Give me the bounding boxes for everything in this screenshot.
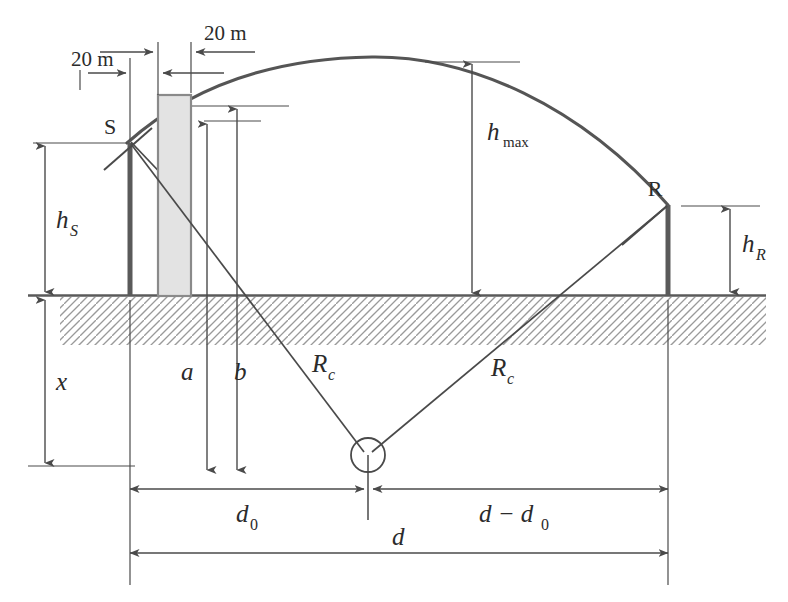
rc-left-label: R [311, 350, 327, 377]
obstacle-block [158, 95, 191, 296]
dim-label-hs-sub: S [70, 222, 78, 239]
ab-dimensions-group: a b [181, 106, 289, 470]
dim-label-d0: d [236, 500, 249, 527]
dim-label-hr-sub: R [755, 246, 766, 263]
hr-dimension-group: h R [681, 206, 766, 292]
dim-label-d-minus-d0-sub: 0 [541, 516, 549, 533]
path-profile-figure: S R R c R c 20 m 20 m [0, 0, 788, 602]
dim-label-hr: h [742, 230, 755, 257]
rc-right-sub: c [507, 370, 514, 387]
dim-label-d-minus-d0: d − d [479, 500, 534, 527]
dim-label-b: b [234, 358, 247, 385]
dim-20m-top: 20 m [204, 21, 247, 45]
dim-label-a: a [181, 358, 194, 385]
obstacle-building [158, 95, 191, 296]
rc-right-label: R [490, 354, 506, 381]
rc-left-sub: c [328, 366, 335, 383]
dim-label-hs: h [56, 206, 69, 233]
dim-20m-left: 20 m [71, 47, 114, 71]
dim-label-x: x [55, 368, 67, 395]
propagation-arc [127, 57, 668, 205]
transmitter-label: S [104, 114, 116, 139]
ground-hatching [60, 297, 766, 345]
dim-label-d0-sub: 0 [250, 516, 258, 533]
dim-label-d: d [392, 523, 405, 550]
diagram-root: S R R c R c 20 m 20 m [0, 0, 788, 602]
ground-region [28, 296, 766, 346]
hmax-dimension-group: h max [425, 62, 529, 293]
receiver-mast-group: R [622, 176, 668, 296]
dim-label-hmax: h [487, 118, 500, 145]
receiver-label: R [648, 176, 663, 201]
dim-label-hmax-sub: max [503, 134, 529, 150]
earth-bulge-arc [127, 57, 668, 205]
